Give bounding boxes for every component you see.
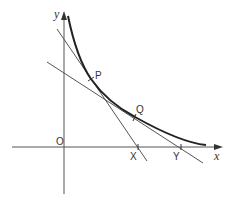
- x-axis-label: x: [213, 149, 220, 163]
- point-q-label: Q: [136, 104, 144, 115]
- tangent-line-q: [47, 62, 203, 163]
- point-y-label: Y: [173, 151, 180, 162]
- point-p-label: P: [95, 70, 102, 81]
- origin-label: O: [56, 136, 64, 147]
- y-axis-arrow-icon: [61, 11, 67, 20]
- point-x-label: X: [130, 151, 137, 162]
- diagram-canvas: y x O P Q X Y: [0, 0, 235, 202]
- tangent-line-p: [57, 29, 147, 161]
- axes: [12, 11, 223, 194]
- y-axis-label: y: [53, 7, 60, 21]
